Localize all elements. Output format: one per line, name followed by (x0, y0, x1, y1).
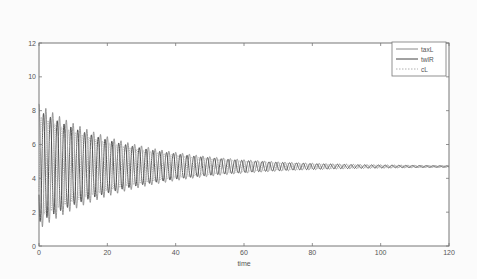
legend-label-taxL: taxL (421, 46, 434, 53)
y-tick-label: 6 (32, 141, 36, 148)
y-tick-label: 10 (28, 73, 36, 80)
figure: 020406080100120024681012 time taxL twlR … (0, 0, 477, 279)
y-tick-label: 12 (28, 40, 36, 47)
y-tick-label: 4 (32, 175, 36, 182)
legend-label-twlR: twlR (421, 56, 434, 63)
x-tick-label: 60 (240, 249, 248, 256)
legend: taxL twlR cL (392, 42, 446, 76)
x-tick-label: 80 (308, 249, 316, 256)
legend-label-cL: cL (421, 66, 428, 73)
x-tick-label: 120 (443, 249, 455, 256)
x-tick-label: 20 (103, 249, 111, 256)
y-tick-label: 8 (32, 107, 36, 114)
x-tick-label: 0 (37, 249, 41, 256)
x-tick-label: 40 (172, 249, 180, 256)
y-tick-label: 2 (32, 209, 36, 216)
x-tick-label: 100 (375, 249, 387, 256)
line-chart: 020406080100120024681012 time taxL twlR … (0, 0, 477, 279)
x-axis-label: time (237, 260, 250, 267)
y-tick-label: 0 (32, 243, 36, 250)
axes-background (39, 43, 449, 246)
